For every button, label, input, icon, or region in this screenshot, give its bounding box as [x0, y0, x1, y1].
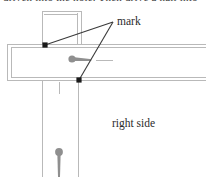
vertical-nail-shaft [57, 152, 60, 177]
construction-lines [7, 11, 206, 177]
right-side-label: right side [112, 118, 155, 130]
horizontal-nail-shaft [72, 57, 92, 61]
leader-to-lower-mark [79, 22, 113, 80]
lower-mark-point [76, 77, 81, 82]
horizontal-nail [68, 55, 92, 62]
upper-mark-point [42, 42, 47, 47]
vertical-nail [55, 148, 63, 177]
joint-diagram [0, 0, 206, 177]
leader-to-upper-mark [45, 22, 113, 45]
leader-lines [45, 22, 113, 80]
mark-label: mark [117, 16, 141, 28]
nails [55, 55, 92, 177]
figure-canvas: driven into the hole. Then drive a nail … [0, 0, 206, 177]
